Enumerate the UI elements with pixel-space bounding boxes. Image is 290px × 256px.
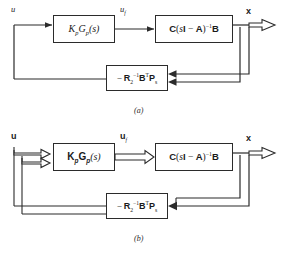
diagram-a-wiring <box>0 0 290 128</box>
caption-a: (a) <box>134 106 143 115</box>
input-arrow-lower <box>22 156 50 168</box>
input-arrow-upper <box>14 147 50 159</box>
controller-expression: KpGp(s) <box>67 152 100 162</box>
caption-b: (b) <box>134 234 143 243</box>
feedback-gain-block[interactable]: − R2−1BTPs <box>106 65 168 91</box>
diagram-b-wiring <box>0 128 290 256</box>
output-x-arrowhead <box>249 20 275 31</box>
plant-block[interactable]: C(sI − A)−1B <box>155 15 233 43</box>
plant-expression: C(sI − A)−1B <box>169 24 219 35</box>
input-label-u: u <box>11 132 17 141</box>
controller-block[interactable]: KpGp(s) <box>53 143 115 171</box>
plant-block[interactable]: C(sI − A)−1B <box>155 143 233 171</box>
feedback-arrowhead-upper <box>168 70 177 77</box>
output-x-arrowhead <box>249 148 275 159</box>
uf-arrow <box>115 151 154 164</box>
feedback-arrowhead-lower <box>168 78 177 85</box>
input-label-u: u <box>11 5 15 14</box>
block-diagram-a: KpGp(s) C(sI − A)−1B − R2−1BTPs u uf x (… <box>0 0 290 128</box>
figure-page: KpGp(s) C(sI − A)−1B − R2−1BTPs u uf x (… <box>0 0 290 256</box>
output-label-x: x <box>246 7 251 16</box>
controller-expression: KpGp(s) <box>69 24 100 34</box>
signal-label-uf: uf <box>120 132 127 141</box>
signal-label-uf: uf <box>120 5 126 14</box>
controller-block[interactable]: KpGp(s) <box>53 15 115 43</box>
plant-expression: C(sI − A)−1B <box>169 152 219 163</box>
output-label-x: x <box>246 134 251 143</box>
feedback-expression: − R2−1BTPs <box>117 202 157 211</box>
block-diagram-b: KpGp(s) C(sI − A)−1B − R2−1BTPs u uf x (… <box>0 128 290 256</box>
feedback-gain-block[interactable]: − R2−1BTPs <box>106 193 168 219</box>
feedback-expression: − R2−1BTPs <box>117 74 157 83</box>
